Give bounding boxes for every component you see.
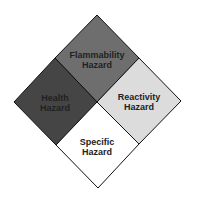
hazard-diamond: Flammability Hazard Health Hazard Reacti… xyxy=(0,0,205,201)
reactivity-label-line2: Hazard xyxy=(124,102,154,112)
flammability-label-line1: Flammability xyxy=(69,50,124,60)
health-label-line1: Health xyxy=(41,93,69,103)
reactivity-label-line1: Reactivity xyxy=(118,92,161,102)
specific-label-line2: Hazard xyxy=(82,147,112,157)
health-label-line2: Hazard xyxy=(40,103,70,113)
specific-label-line1: Specific xyxy=(80,137,115,147)
flammability-label-line2: Hazard xyxy=(82,60,112,70)
